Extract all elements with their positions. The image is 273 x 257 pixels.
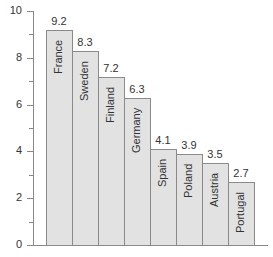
y-major-tick	[27, 58, 33, 59]
category-label: Sweden	[78, 61, 90, 101]
y-major-tick	[27, 198, 33, 199]
value-label: 4.1	[150, 134, 176, 146]
y-major-tick	[27, 245, 33, 246]
y-tick-label: 6	[2, 98, 22, 110]
value-label: 2.7	[228, 167, 254, 179]
y-major-tick	[27, 151, 33, 152]
y-minor-tick	[29, 175, 33, 176]
value-label: 8.3	[72, 36, 98, 48]
category-label: Poland	[182, 163, 194, 197]
category-label: France	[52, 39, 64, 73]
bar-chart: 0246810 9.2France8.3Sweden7.2Finland6.3G…	[0, 0, 273, 257]
y-minor-tick	[29, 128, 33, 129]
y-tick-label: 4	[2, 144, 22, 156]
category-label: Portugal	[234, 192, 246, 233]
value-label: 3.5	[202, 148, 228, 160]
y-minor-tick	[29, 34, 33, 35]
category-label: Austria	[208, 173, 220, 207]
y-tick-label: 10	[2, 4, 22, 16]
value-label: 7.2	[98, 62, 124, 74]
y-tick-label: 2	[2, 191, 22, 203]
category-label: Spain	[156, 159, 168, 187]
value-label: 3.9	[176, 139, 202, 151]
category-label: Finland	[104, 86, 116, 122]
y-major-tick	[27, 105, 33, 106]
y-axis	[33, 11, 34, 245]
y-tick-label: 8	[2, 51, 22, 63]
y-major-tick	[27, 11, 33, 12]
value-label: 9.2	[46, 15, 72, 27]
y-tick-label: 0	[2, 238, 22, 250]
y-minor-tick	[29, 222, 33, 223]
category-label: Germany	[130, 107, 142, 152]
value-label: 6.3	[124, 83, 150, 95]
y-minor-tick	[29, 81, 33, 82]
